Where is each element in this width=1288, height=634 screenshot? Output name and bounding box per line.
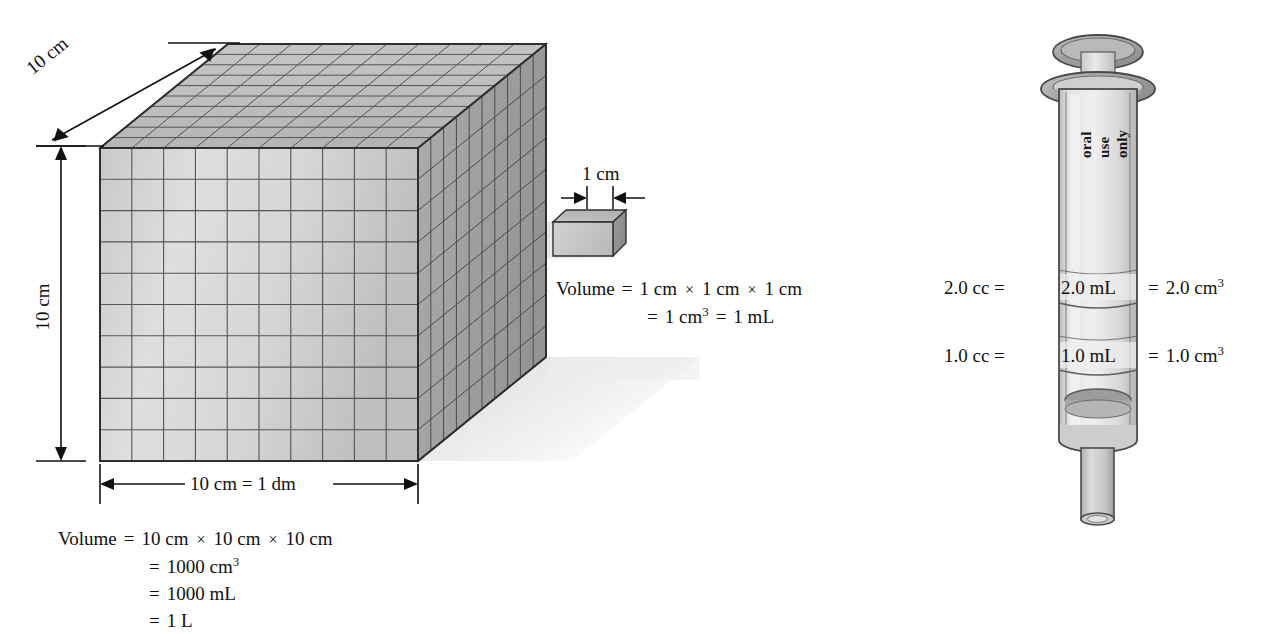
cube-width-label: 10 cm = 1 dm xyxy=(190,473,296,495)
exponent-3: 3 xyxy=(233,554,239,569)
cube-volume-label: Volume xyxy=(58,525,117,552)
cube-volume-cm3: 1000 cm xyxy=(167,553,233,580)
equals-sign: = xyxy=(1148,277,1159,298)
equals-sign: = xyxy=(1148,345,1159,366)
figure-canvas: 10 cm 10 cm 10 cm = 1 dm 1 cm Volume=10 … xyxy=(0,0,1288,634)
small-cube-face-front xyxy=(553,222,613,256)
small-cube-volume-term-3: 1 cm xyxy=(764,275,801,302)
times-icon: × xyxy=(260,526,285,553)
small-cube-volume-line-1: Volume=1 cm×1 cm×1 cm xyxy=(556,275,802,303)
times-icon: × xyxy=(188,526,213,553)
syringe-1cc-label: 1.0 cc = xyxy=(944,345,1005,367)
times-icon: × xyxy=(739,276,764,303)
syringe-1ml-label: 1.0 mL xyxy=(1061,345,1116,367)
syringe-plunger-seal xyxy=(1065,389,1131,418)
exponent-3: 3 xyxy=(1217,343,1223,358)
equals-sign: = xyxy=(615,275,640,302)
cube-volume-term-2: 10 cm xyxy=(213,525,260,552)
cube-volume-term-3: 10 cm xyxy=(285,525,332,552)
small-cube-volume-ml: 1 mL xyxy=(733,303,774,330)
syringe-1cm3-label: =1.0 cm3 xyxy=(1148,345,1224,367)
exponent-3: 3 xyxy=(1217,275,1223,290)
equals-sign: = xyxy=(640,303,665,330)
cube-volume-equation: Volume=10 cm×10 cm×10 cm =1000 cm3 =1000… xyxy=(58,525,332,634)
syringe-2cm3-value: 2.0 cm xyxy=(1166,277,1218,298)
small-cube-volume-term-2: 1 cm xyxy=(702,275,739,302)
equals-sign: = xyxy=(117,525,142,552)
small-cube-volume-cm3: 1 cm xyxy=(665,303,702,330)
syringe-2cc-label: 2.0 cc = xyxy=(944,277,1005,299)
cube-volume-ml: 1000 mL xyxy=(167,580,236,607)
syringe-1cm3-value: 1.0 cm xyxy=(1166,345,1218,366)
small-cube-volume-label: Volume xyxy=(556,275,615,302)
equals-sign: = xyxy=(142,553,167,580)
cube-volume-line-3: =1000 mL xyxy=(58,580,332,607)
small-cube-volume-equation: Volume=1 cm×1 cm×1 cm =1 cm3=1 mL xyxy=(556,275,802,330)
small-cube-volume-term-1: 1 cm xyxy=(639,275,676,302)
small-cube-volume-line-2: =1 cm3=1 mL xyxy=(556,303,802,330)
small-cube-dim-arrows xyxy=(561,186,645,209)
times-icon: × xyxy=(677,276,702,303)
equals-sign: = xyxy=(142,580,167,607)
cube-volume-term-1: 10 cm xyxy=(141,525,188,552)
syringe-2cm3-label: =2.0 cm3 xyxy=(1148,277,1224,299)
cube-volume-line-2: =1000 cm3 xyxy=(58,553,332,580)
syringe-nozzle xyxy=(1081,448,1114,520)
equals-sign: = xyxy=(709,303,734,330)
cube-volume-line-4: =1 L xyxy=(58,607,332,634)
cube-height-label: 10 cm xyxy=(32,262,54,352)
big-cube xyxy=(100,44,546,461)
equals-sign: = xyxy=(142,607,167,634)
cube-volume-liter: 1 L xyxy=(167,607,193,634)
cube-volume-line-1: Volume=10 cm×10 cm×10 cm xyxy=(58,525,332,553)
syringe-2ml-label: 2.0 mL xyxy=(1061,277,1116,299)
small-cube xyxy=(553,210,626,256)
small-cube-dim-label: 1 cm xyxy=(582,163,619,185)
